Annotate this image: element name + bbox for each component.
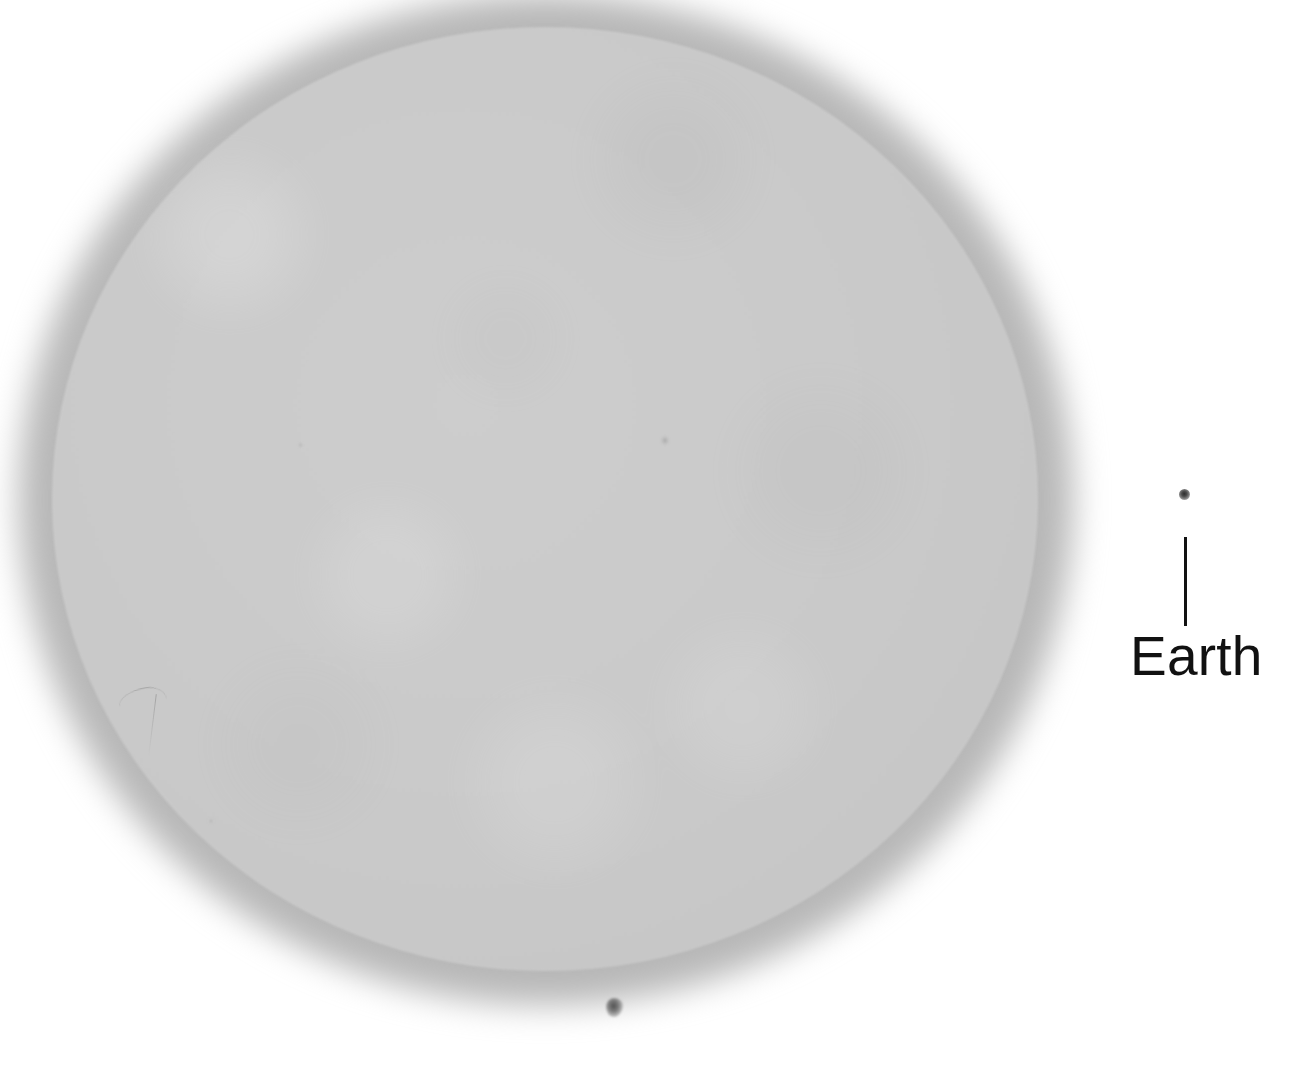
sun-disk xyxy=(52,27,1038,971)
image-canvas: Earth xyxy=(0,0,1294,1071)
sunspot-marking xyxy=(606,998,623,1017)
earth-dot-icon xyxy=(1179,489,1190,500)
earth-leader-line xyxy=(1184,537,1187,626)
earth-label: Earth xyxy=(1130,629,1262,684)
